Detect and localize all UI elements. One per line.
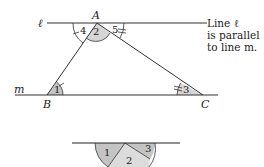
angle-3-label: 3	[183, 84, 189, 95]
angle-sum-semicircle: 1 2 3	[72, 143, 180, 167]
angle-4-tick	[73, 32, 79, 34]
semicircle-label-2: 2	[126, 155, 132, 166]
note-line-2: is parallel	[207, 29, 260, 41]
angle-2-label: 2	[93, 26, 99, 37]
angle-5-arc	[120, 23, 124, 38]
angle-5-label: 5	[112, 24, 118, 35]
vertex-c-label: C	[201, 98, 210, 111]
note-line-1: Line ℓ	[207, 17, 239, 29]
line-l-label: ℓ	[38, 17, 43, 30]
angle-5-tick-a	[118, 29, 126, 30]
parallel-lines-triangle-diagram: ℓ m A B C 4 2 5 1 3 Line ℓ is parallel t…	[0, 0, 264, 167]
semicircle-label-3: 3	[145, 143, 151, 154]
angle-5-tick-b	[118, 32, 126, 33]
note-line-3: to line m.	[207, 41, 257, 53]
angle-1-label: 1	[54, 84, 60, 95]
vertex-b-label: B	[42, 98, 51, 111]
semicircle-label-1: 1	[104, 147, 110, 158]
line-m-label: m	[14, 83, 24, 96]
angle-4-label: 4	[80, 25, 86, 36]
angle-3-shade	[177, 83, 203, 95]
vertex-a-label: A	[91, 9, 100, 22]
